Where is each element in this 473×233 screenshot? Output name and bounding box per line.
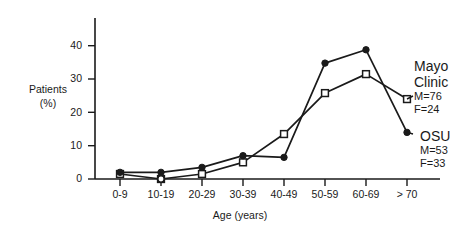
y-axis-title: Patients (%)	[12, 82, 84, 110]
data-point-mayo-clinic-70	[404, 96, 411, 103]
data-series-layer	[117, 47, 411, 183]
y-tick-label-0: 0	[58, 173, 82, 184]
legend-osu-female-count: F=33	[420, 157, 450, 170]
legend-mayo-male-count: M=76	[414, 90, 448, 103]
data-point-osu-5059	[322, 60, 328, 66]
y-axis-ticks	[88, 46, 95, 179]
data-point-osu-4049	[281, 154, 287, 160]
legend-mayo-name-line1: Mayo	[414, 58, 448, 74]
y-axis-title-line1: Patients	[12, 82, 84, 96]
x-tick-label-20-29: 20-29	[179, 189, 225, 200]
series-line-osu	[120, 50, 407, 173]
x-tick-label-10-19: 10-19	[138, 189, 184, 200]
x-tick-label-30-39: 30-39	[220, 189, 266, 200]
data-point-osu-6069	[363, 47, 369, 53]
x-tick-label-40-49: 40-49	[261, 189, 307, 200]
data-point-mayo-clinic-3039	[240, 159, 247, 166]
data-point-mayo-clinic-2029	[199, 171, 206, 178]
data-point-mayo-clinic-5059	[322, 90, 329, 97]
x-tick-label-50-59: 50-59	[302, 189, 348, 200]
legend-entry-mayo-clinic: Mayo Clinic M=76 F=24	[414, 58, 448, 116]
data-point-mayo-clinic-1019	[158, 176, 164, 182]
legend-osu-name: OSU	[420, 128, 450, 144]
data-point-osu-3039	[240, 152, 246, 158]
series-line-mayo-clinic	[120, 74, 407, 179]
x-axis-title: Age (years)	[150, 209, 330, 221]
data-point-mayo-clinic-4049	[281, 131, 288, 138]
y-tick-label-10: 10	[58, 140, 82, 151]
legend-osu-male-count: M=53	[420, 144, 450, 157]
patients-by-age-chart: 40 30 20 10 0 0-9 10-19 20-29 30-39 40-4…	[0, 0, 473, 233]
x-tick-label-0-9: 0-9	[97, 189, 143, 200]
y-axis-title-line2: (%)	[12, 96, 84, 110]
data-point-mayo-clinic-6069	[363, 71, 370, 78]
legend-mayo-name-line2: Clinic	[414, 74, 448, 90]
data-point-osu-09	[117, 169, 123, 175]
y-tick-label-40: 40	[58, 40, 82, 51]
x-tick-label-over-70: > 70	[384, 189, 430, 200]
x-tick-label-60-69: 60-69	[343, 189, 389, 200]
data-point-osu-1019	[158, 169, 164, 175]
data-point-osu-2029	[199, 164, 205, 170]
legend-entry-osu: OSU M=53 F=33	[420, 128, 450, 170]
legend-mayo-female-count: F=24	[414, 103, 448, 116]
